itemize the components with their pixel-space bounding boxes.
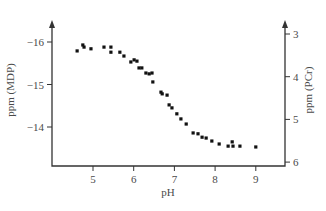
- x-tick-label: 9: [253, 173, 259, 185]
- data-point: [129, 60, 132, 63]
- data-point: [122, 54, 125, 57]
- data-point: [227, 145, 230, 148]
- data-point: [102, 46, 105, 49]
- data-point: [137, 66, 140, 69]
- data-point: [210, 139, 213, 142]
- y2-axis-title: ppm (PCr): [302, 66, 315, 113]
- data-point: [192, 131, 195, 134]
- titration-chart: 56789−16−15−143456 pH ppm (MDP) ppm (PCr…: [0, 0, 326, 211]
- x-tick-label: 7: [172, 173, 178, 185]
- y-axis-title: ppm (MDP): [4, 63, 17, 117]
- data-point: [151, 80, 154, 83]
- data-point: [231, 140, 234, 143]
- data-point: [109, 51, 112, 54]
- data-point: [200, 136, 203, 139]
- x-tick-label: 5: [90, 173, 96, 185]
- y-tick-label: −14: [27, 121, 45, 133]
- data-point: [76, 49, 79, 52]
- x-axis-title: pH: [161, 186, 175, 198]
- data-point: [254, 145, 257, 148]
- data-point: [218, 142, 221, 145]
- x-tick-label: 8: [212, 173, 218, 185]
- data-point: [82, 46, 85, 49]
- data-point: [89, 47, 92, 50]
- axes: 56789−16−15−143456: [27, 20, 299, 185]
- data-point: [179, 117, 182, 120]
- data-point: [238, 145, 241, 148]
- y-tick-label: −16: [27, 36, 45, 48]
- data-point: [175, 112, 178, 115]
- y2-tick-label: 3: [293, 28, 299, 40]
- data-point: [185, 122, 188, 125]
- chart-canvas: 56789−16−15−143456 pH ppm (MDP) ppm (PCr…: [0, 0, 326, 211]
- data-point: [170, 106, 173, 109]
- data-point: [140, 66, 143, 69]
- data-point: [205, 136, 208, 139]
- data-point: [150, 71, 153, 74]
- y-axis-arrow-icon: [49, 20, 55, 28]
- x-tick-label: 6: [131, 173, 137, 185]
- y2-tick-label: 5: [293, 113, 299, 125]
- data-point: [168, 103, 171, 106]
- data-point: [118, 51, 121, 54]
- data-point: [231, 145, 234, 148]
- data-point: [109, 46, 112, 49]
- y-tick-label: −15: [27, 79, 45, 91]
- data-point: [165, 94, 168, 97]
- y2-axis-arrow-icon: [282, 20, 288, 28]
- data-point: [144, 71, 147, 74]
- y2-tick-label: 4: [293, 71, 299, 83]
- data-point: [133, 58, 136, 61]
- data-point: [148, 72, 151, 75]
- axis-labels: pH ppm (MDP) ppm (PCr): [4, 63, 315, 198]
- data-point: [196, 132, 199, 135]
- data-point: [161, 92, 164, 95]
- data-points: [76, 43, 258, 148]
- data-point: [135, 60, 138, 63]
- y2-tick-label: 6: [293, 156, 299, 168]
